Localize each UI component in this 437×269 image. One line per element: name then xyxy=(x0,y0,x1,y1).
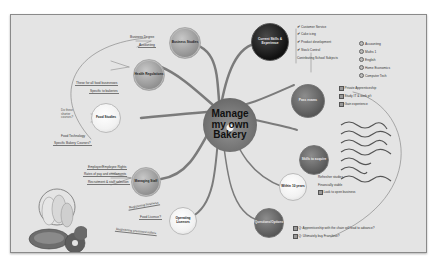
question-item[interactable]: Q: Ultimately buy Franchise? xyxy=(293,234,339,239)
item-label: Customer Service xyxy=(301,25,326,29)
item-label: Contributing School Subjects xyxy=(297,56,338,60)
item-label: Gain experience xyxy=(345,102,368,106)
smiley-icon xyxy=(359,65,364,70)
node-questions-options[interactable]: Questions/Options xyxy=(254,208,284,238)
mind-map-canvas: Manage my own Bakery Business Studies Bu… xyxy=(10,14,427,253)
subject-item[interactable]: Home Economics xyxy=(359,65,390,70)
question-item[interactable]: Q: Apprenticeship with the chain will le… xyxy=(293,226,375,231)
skill-item[interactable]: ✔Customer Service xyxy=(297,25,326,29)
child-financially-viable[interactable]: Financially viable xyxy=(318,183,342,187)
node-food-studies[interactable]: Food Studies xyxy=(91,103,121,133)
child-refresher[interactable]: Refresher studies xyxy=(318,175,343,179)
check-icon: ✔ xyxy=(297,32,300,36)
node-label: Within 10 years xyxy=(281,185,304,189)
node-skills-to-acquire[interactable]: Skills to acquire xyxy=(299,145,329,175)
central-topic-line3: Bakery xyxy=(211,130,248,141)
item-label: Home Economics xyxy=(365,66,390,70)
skill-item[interactable]: ✔Cake icing xyxy=(297,32,316,36)
central-topic[interactable]: Manage my own Bakery xyxy=(203,98,257,152)
smiley-icon xyxy=(359,49,364,54)
task-icon xyxy=(339,94,344,99)
item-label: Computer Tech xyxy=(365,74,387,78)
child-specific-bakeries[interactable]: Specific to bakeries xyxy=(89,89,119,94)
child-food-technology[interactable]: Food Technology xyxy=(61,134,85,138)
exam-item[interactable]: Private Apprenticeship xyxy=(339,86,376,91)
node-business-studies[interactable]: Business Studies xyxy=(169,27,201,59)
subject-item[interactable]: Maths 1 xyxy=(359,49,376,54)
subject-item[interactable]: Computer Tech xyxy=(359,73,387,78)
node-pass-exams[interactable]: Pass exams xyxy=(291,84,325,118)
smiley-icon xyxy=(359,73,364,78)
node-label: Current Skills & Experience xyxy=(252,38,288,45)
skill-item[interactable]: ✔Stock Control xyxy=(297,48,320,52)
check-icon: ✔ xyxy=(297,48,300,52)
smiley-icon xyxy=(359,57,364,62)
child-food-licence[interactable]: Food Licence? xyxy=(139,215,162,220)
item-label: Q: Apprenticeship with the chain will le… xyxy=(299,226,375,230)
node-operating-licenses[interactable]: Operating Licenses xyxy=(169,207,197,235)
child-recruitment[interactable]: Recruitment & staff selection xyxy=(87,180,130,185)
item-label: Look to open business xyxy=(324,190,356,194)
task-icon xyxy=(339,102,344,107)
node-label: Food Studies xyxy=(96,116,116,120)
question-icon xyxy=(293,234,298,239)
node-label: Questions/Options xyxy=(255,221,284,225)
child-employer-rights[interactable]: Employer/Employee Rights xyxy=(87,165,127,170)
child-these-for-all[interactable]: These for all food businesses xyxy=(75,81,118,86)
check-icon: ✔ xyxy=(297,25,300,29)
item-label: Study IT & work p/t xyxy=(345,94,372,98)
child-accounting[interactable]: Accounting xyxy=(138,43,156,48)
node-label: Business Studies xyxy=(172,41,199,45)
node-health-regulations[interactable]: Health Regulations xyxy=(133,59,165,91)
bakery-image xyxy=(27,187,87,253)
handwritten-skills xyxy=(337,119,397,189)
child-rates-of-pay[interactable]: Rates of pay and entitlements xyxy=(83,172,127,177)
node-label: Pass exams xyxy=(299,99,317,103)
item-label: Product development xyxy=(301,40,331,44)
node-label: Managing Staff xyxy=(135,180,158,184)
subject-item[interactable]: Accounting xyxy=(359,41,381,46)
node-label: Skills to acquire xyxy=(302,158,326,162)
child-look-to-open[interactable]: Look to open business xyxy=(318,190,355,195)
check-icon: ✔ xyxy=(297,40,300,44)
child-business-degree[interactable]: Business Degree xyxy=(130,35,154,39)
task-icon xyxy=(339,86,344,91)
node-within-10-years[interactable]: Within 10 years xyxy=(279,173,307,201)
exam-item[interactable]: Study IT & work p/t xyxy=(339,94,371,99)
item-label: English xyxy=(365,58,375,62)
side-note: Do these shorter courses? xyxy=(61,109,73,120)
child-specific-bakery-courses[interactable]: Specific Bakery Courses? xyxy=(53,141,92,146)
skill-item[interactable]: ✔Product development xyxy=(297,40,331,44)
subject-item[interactable]: English xyxy=(359,57,375,62)
item-label: Accounting xyxy=(365,42,381,46)
item-label: Q: Ultimately buy Franchise? xyxy=(299,234,340,238)
node-current-skills[interactable]: Current Skills & Experience xyxy=(251,23,289,61)
node-managing-staff[interactable]: Managing Staff xyxy=(131,167,161,197)
skill-item[interactable]: Contributing School Subjects xyxy=(297,56,338,60)
exam-item[interactable]: Gain experience xyxy=(339,102,368,107)
item-label: Cake icing xyxy=(301,32,316,36)
smiley-icon xyxy=(359,41,364,46)
question-icon xyxy=(293,226,298,231)
item-label: Stock Control xyxy=(301,48,320,52)
node-label: Operating Licenses xyxy=(170,217,196,224)
item-label: Maths 1 xyxy=(365,50,376,54)
node-label: Health Regulations xyxy=(135,73,164,77)
flag-icon xyxy=(318,190,323,195)
item-label: Private Apprenticeship xyxy=(345,86,377,90)
